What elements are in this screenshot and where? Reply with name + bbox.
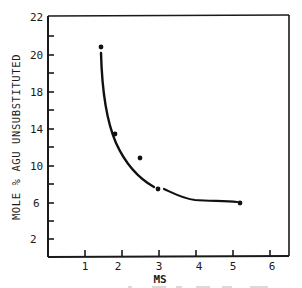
data-points [99, 45, 243, 206]
plot-frame [48, 15, 289, 257]
y-tick-label: 14 [30, 123, 44, 136]
data-point [113, 132, 118, 137]
x-tick-label: 6 [269, 260, 276, 273]
data-point [99, 45, 104, 50]
data-point [156, 187, 161, 192]
x-tick-label: 2 [115, 260, 122, 273]
chart: 22 20 18 14 10 6 2 MOLE % AGU UNSUBSTITU… [0, 0, 302, 288]
y-tick-label: 20 [30, 49, 43, 62]
y-tick-label: 22 [30, 11, 43, 24]
fitted-curve [101, 53, 154, 187]
y-tick-label: 18 [30, 86, 43, 99]
data-point [238, 201, 243, 206]
y-tick-label: 2 [30, 233, 37, 246]
x-tick-label: 3 [156, 260, 163, 273]
x-tick-label: 4 [196, 260, 203, 273]
y-tick-label: 6 [33, 197, 40, 210]
x-tick-label: 1 [82, 260, 89, 273]
y-axis-label: MOLE % AGU UNSUBSTITUTED [10, 54, 22, 220]
data-point [138, 156, 143, 161]
x-axis-tick-labels: 1 2 3 4 5 6 [82, 260, 276, 273]
y-axis-tick-labels: 22 20 18 14 10 6 2 [30, 11, 44, 246]
y-tick-label: 10 [30, 160, 43, 173]
x-axis-label: MS [153, 273, 166, 286]
x-tick-label: 5 [230, 260, 237, 273]
fitted-curve-tail [164, 189, 237, 202]
